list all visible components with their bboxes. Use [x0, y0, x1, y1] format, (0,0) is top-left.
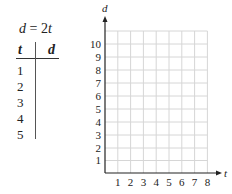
axes	[105, 22, 216, 173]
x-tick: 1	[115, 176, 121, 188]
y-tick: 7	[96, 77, 102, 89]
x-tick-labels: 1 2 3 4 5 6 7 8	[115, 176, 211, 188]
x-tick: 3	[141, 176, 147, 188]
coordinate-grid: d t 1 2 3 4 5 6 7 8 1 2 3 4 5 6 7 8 9 10	[0, 0, 232, 194]
x-tick: 6	[179, 176, 185, 188]
t-axis-label: t	[224, 167, 228, 179]
y-tick: 6	[96, 90, 102, 102]
x-tick: 8	[205, 176, 211, 188]
x-tick: 7	[192, 176, 198, 188]
y-tick: 8	[96, 64, 102, 76]
y-tick: 5	[96, 103, 102, 115]
t-axis-arrow-icon	[216, 171, 222, 176]
x-tick: 2	[128, 176, 134, 188]
grid-lines	[105, 31, 207, 173]
x-tick: 5	[166, 176, 172, 188]
y-tick: 2	[96, 142, 102, 154]
y-tick: 1	[96, 154, 102, 166]
y-tick: 10	[90, 38, 102, 50]
d-axis-arrow-icon	[103, 16, 108, 22]
y-tick: 4	[96, 116, 102, 128]
y-tick: 9	[96, 51, 102, 63]
x-tick: 4	[153, 176, 159, 188]
y-tick: 3	[96, 129, 102, 141]
d-axis-label: d	[102, 2, 108, 14]
y-tick-labels: 1 2 3 4 5 6 7 8 9 10	[90, 38, 102, 166]
